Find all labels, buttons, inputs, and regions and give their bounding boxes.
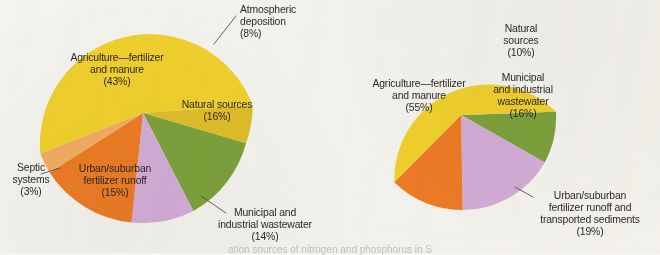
- label-municipal-wastewater-right: Municipal and industrial wastewater (16%…: [478, 72, 568, 120]
- label-urban-runoff-right: Urban/suburban fertilizer runoff and tra…: [520, 190, 660, 238]
- page-cutoff-text: ation sources of nitrogen and phosphorus…: [0, 244, 660, 255]
- label-natural-sources-left: Natural sources (16%): [158, 99, 276, 123]
- label-atmospheric-deposition: Atmospheric deposition (8%): [240, 4, 336, 40]
- label-agriculture-left: Agriculture—fertilizer and manure (43%): [25, 52, 209, 88]
- label-natural-sources-right: Natural sources (10%): [487, 23, 555, 59]
- label-urban-runoff-left: Urban/suburban fertilizer runoff (15%): [63, 163, 167, 199]
- label-septic-systems: Septic systems (3%): [0, 162, 62, 198]
- leader-line-atmospheric: [214, 16, 236, 44]
- label-municipal-wastewater-left: Municipal and industrial wastewater (14%…: [203, 207, 327, 243]
- label-agriculture-right: Agriculture—fertilizer and manure (55%): [355, 78, 483, 114]
